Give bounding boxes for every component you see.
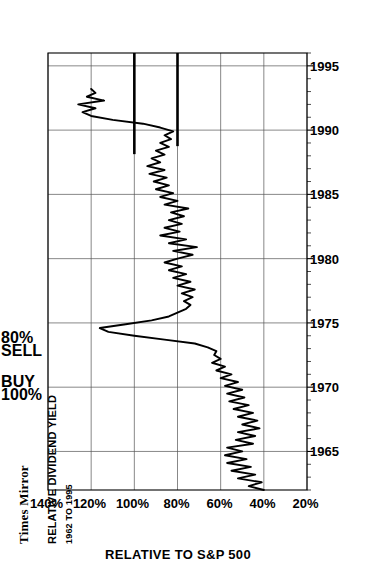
time-tick-label: 1970 — [307, 380, 343, 395]
value-tick-label: 140% — [25, 496, 69, 511]
rotated-figure: Times Mirror RELATIVE DIVIDEND YIELD 196… — [0, 0, 370, 562]
time-tick-label: 1990 — [307, 123, 343, 138]
data-series-line — [78, 89, 264, 490]
buy-marker: BUY100% — [1, 374, 42, 404]
time-tick-label: 1975 — [307, 315, 343, 330]
sell-marker-line2: SELL — [1, 344, 42, 360]
time-tick-label: 1965 — [307, 444, 343, 459]
plot-area — [48, 53, 307, 490]
sell-marker: 80%SELL — [1, 331, 42, 361]
value-axis-title: RELATIVE TO S&P 500 — [105, 547, 251, 562]
time-tick-label: 1985 — [307, 187, 343, 202]
value-tick-label: 120% — [68, 496, 112, 511]
value-tick-label: 80% — [154, 496, 198, 511]
value-tick-label: 60% — [197, 496, 241, 511]
value-tick-label: 20% — [284, 496, 328, 511]
time-tick-label: 1980 — [307, 251, 343, 266]
time-tick-label: 1995 — [307, 58, 343, 73]
buy-marker-line2: 100% — [1, 387, 42, 403]
value-tick-label: 100% — [111, 496, 155, 511]
value-tick-label: 40% — [240, 496, 284, 511]
chart-page: Times Mirror RELATIVE DIVIDEND YIELD 196… — [0, 0, 370, 562]
company-title: Times Mirror — [16, 395, 32, 544]
